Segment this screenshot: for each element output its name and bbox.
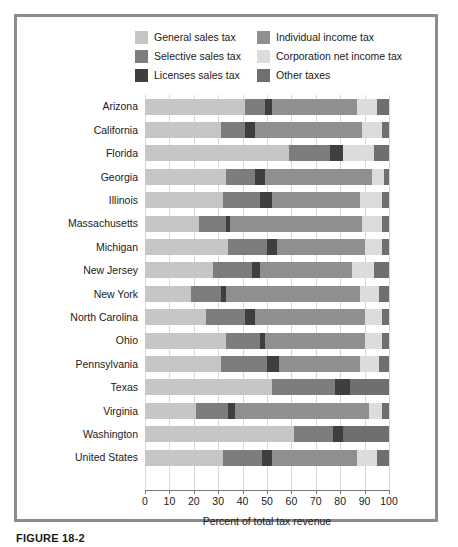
bar-segment	[272, 99, 357, 115]
bar-segment	[145, 262, 213, 278]
bar-stack	[145, 450, 389, 466]
x-tick-mark	[389, 490, 390, 494]
bar-segment	[230, 216, 362, 232]
bar-segment	[360, 286, 380, 302]
legend-item-individual_income: Individual income tax	[257, 31, 425, 44]
x-tick-mark	[365, 490, 366, 494]
bar-track	[145, 122, 389, 138]
bar-segment	[228, 239, 267, 255]
bar-segment	[382, 309, 389, 325]
bar-row: United States	[17, 446, 435, 469]
bar-stack	[145, 286, 389, 302]
bar-track	[145, 356, 389, 372]
bar-segment	[343, 426, 389, 442]
category-label: Pennsylvania	[17, 359, 145, 370]
bar-segment	[267, 356, 279, 372]
bar-segment	[245, 309, 255, 325]
bar-segment	[365, 333, 382, 349]
bar-segment	[206, 309, 245, 325]
bar-track	[145, 403, 389, 419]
bar-segment	[226, 286, 360, 302]
bar-segment	[352, 262, 374, 278]
bar-segment	[145, 403, 196, 419]
bar-stack	[145, 192, 389, 208]
category-label: United States	[17, 452, 145, 463]
category-label: Virginia	[17, 406, 145, 417]
bar-segment	[221, 122, 245, 138]
x-tick-mark	[243, 490, 244, 494]
category-label: North Carolina	[17, 312, 145, 323]
bar-track	[145, 379, 389, 395]
x-axis-tick-labels: 0102030405060708090100	[145, 496, 389, 510]
bar-stack	[145, 262, 389, 278]
x-tick-label: 70	[310, 496, 322, 507]
bar-stack	[145, 426, 389, 442]
bar-segment	[260, 192, 272, 208]
bar-row: Texas	[17, 376, 435, 399]
bar-segment	[199, 216, 226, 232]
bar-row: New Jersey	[17, 259, 435, 282]
bar-row: Illinois	[17, 189, 435, 212]
bar-row: New York	[17, 282, 435, 305]
category-label: Michigan	[17, 242, 145, 253]
bar-stack	[145, 333, 389, 349]
bar-segment	[365, 239, 382, 255]
x-tick-mark	[145, 490, 146, 494]
bar-row: Florida	[17, 142, 435, 165]
x-tick-mark	[218, 490, 219, 494]
bar-segment	[382, 333, 389, 349]
bar-segment	[145, 169, 226, 185]
bar-segment	[374, 262, 389, 278]
bar-segment	[145, 216, 199, 232]
bar-segment	[255, 169, 265, 185]
bar-segment	[330, 145, 342, 161]
bar-segment	[343, 145, 375, 161]
bar-stack	[145, 239, 389, 255]
bar-segment	[226, 333, 260, 349]
bar-segment	[379, 356, 389, 372]
bar-segment	[145, 309, 206, 325]
x-tick-mark	[316, 490, 317, 494]
bar-segment	[277, 239, 365, 255]
bar-segment	[294, 426, 333, 442]
bar-segment	[255, 122, 362, 138]
bar-segment	[362, 216, 382, 232]
bar-segment	[245, 99, 265, 115]
x-tick-mark	[340, 490, 341, 494]
x-tick-label: 100	[380, 496, 398, 507]
x-tick-mark	[291, 490, 292, 494]
bar-segment	[145, 379, 272, 395]
legend-swatch-corporation_net_income	[257, 50, 270, 63]
chart-legend: General sales taxIndividual income taxSe…	[135, 28, 425, 85]
bar-segment	[289, 145, 330, 161]
bar-segment	[145, 333, 226, 349]
bar-segment	[265, 333, 365, 349]
bar-row: Georgia	[17, 165, 435, 188]
category-label: Massachusetts	[17, 218, 145, 229]
bar-segment	[228, 403, 235, 419]
legend-swatch-individual_income	[257, 31, 270, 44]
bar-segment	[145, 239, 228, 255]
x-tick-mark	[267, 490, 268, 494]
bar-row: Virginia	[17, 399, 435, 422]
bar-segment	[221, 356, 267, 372]
bar-segment	[350, 379, 389, 395]
bar-segment	[279, 356, 360, 372]
bar-track	[145, 333, 389, 349]
x-tick-label: 60	[286, 496, 298, 507]
bar-stack	[145, 99, 389, 115]
category-label: Washington	[17, 429, 145, 440]
bar-rows: ArizonaCaliforniaFloridaGeorgiaIllinoisM…	[17, 95, 435, 469]
category-label: Ohio	[17, 335, 145, 346]
bar-segment	[272, 450, 357, 466]
x-axis-tick-marks	[145, 490, 389, 494]
bar-track	[145, 145, 389, 161]
bar-segment	[265, 99, 272, 115]
bar-segment	[245, 122, 255, 138]
legend-swatch-licenses_sales	[135, 69, 148, 82]
bar-segment	[260, 262, 353, 278]
bar-track	[145, 239, 389, 255]
category-label: New York	[17, 289, 145, 300]
bar-track	[145, 450, 389, 466]
bar-track	[145, 216, 389, 232]
